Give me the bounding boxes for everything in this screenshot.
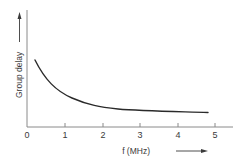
x-tick-label: 2 [100,130,105,140]
x-tick-label: 3 [137,130,142,140]
x-ticks [65,123,215,127]
x-tick-label: 0 [24,130,29,140]
y-axis-label: Group delay [14,51,24,98]
x-label-arrowhead-icon [201,149,208,153]
x-tick-label: 4 [175,130,180,140]
x-tick-label: 1 [62,130,67,140]
y-label-arrowhead-icon [18,12,22,19]
x-axis-label: f (MHz) [122,146,150,156]
x-tick-label: 5 [212,130,217,140]
group-delay-curve [35,60,208,113]
group-delay-chart: 0 1 2 3 4 5 f (MHz) Group delay [0,0,247,159]
x-tick-labels: 0 1 2 3 4 5 [24,130,217,140]
